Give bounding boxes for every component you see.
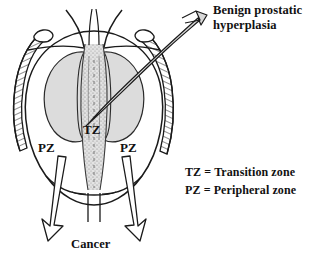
prostate-anatomy-illustration — [0, 0, 309, 259]
cancer-callout-label: Cancer — [71, 237, 110, 252]
capsule-knob-left — [34, 30, 53, 42]
peripheral-zone-label-left: PZ — [38, 140, 55, 155]
capsule-knob-right — [135, 30, 154, 42]
peripheral-zone-label-right: PZ — [120, 140, 137, 155]
legend-entry-transition-zone: TZ = Transition zone — [185, 165, 295, 179]
bph-callout-label: Benign prostatic hyperplasia — [213, 3, 302, 33]
figure-canvas: Benign prostatic hyperplasia TZ PZ PZ TZ… — [0, 0, 309, 259]
legend-entry-peripheral-zone: PZ = Peripheral zone — [185, 183, 296, 197]
transition-zone-label: TZ — [83, 122, 101, 137]
